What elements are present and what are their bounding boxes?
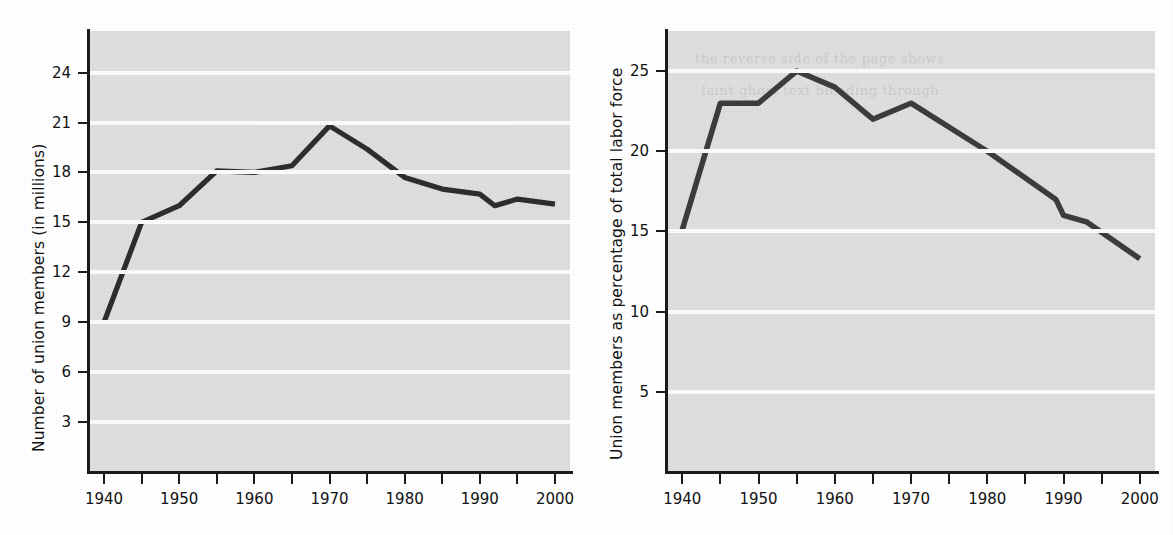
x-axis-tick-label: 1990 — [1044, 490, 1082, 508]
y-axis-tick — [656, 150, 665, 152]
y-axis-tick-label: 5 — [607, 383, 649, 401]
y-axis-line — [87, 29, 90, 474]
y-axis-tick — [656, 70, 665, 72]
gridline — [89, 220, 570, 224]
gridline — [89, 121, 570, 125]
plot-area-container — [89, 31, 570, 472]
x-axis-tick — [834, 474, 836, 484]
y-axis-tick — [78, 321, 87, 323]
gridline — [89, 370, 570, 374]
gridline — [667, 229, 1155, 233]
x-axis-tick — [1063, 474, 1065, 484]
x-axis-tick-label: 2000 — [1121, 490, 1159, 508]
gridline — [89, 71, 570, 75]
x-axis-tick-label: 1950 — [160, 490, 198, 508]
x-axis-tick — [216, 474, 218, 484]
y-axis-tick-label: 15 — [29, 213, 71, 231]
x-axis-tick-label: 1940 — [663, 490, 701, 508]
x-axis-tick — [554, 474, 556, 484]
x-axis-tick — [141, 474, 143, 484]
y-axis-tick — [78, 371, 87, 373]
gridline — [89, 170, 570, 174]
x-axis-line — [665, 471, 1159, 474]
x-axis-tick — [681, 474, 683, 484]
chart-union-members-percent: Union members as percentage of total lab… — [586, 0, 1173, 535]
y-axis-tick — [656, 391, 665, 393]
x-axis-tick-label: 1990 — [461, 490, 499, 508]
gridline — [667, 390, 1155, 394]
x-axis-tick-label: 1960 — [235, 490, 273, 508]
chart-union-members-count: Number of union members (in millions) 36… — [0, 0, 586, 535]
x-axis-tick — [1101, 474, 1103, 484]
y-axis-tick — [78, 171, 87, 173]
y-axis-tick-label: 15 — [607, 222, 649, 240]
x-axis-tick — [796, 474, 798, 484]
x-axis-tick-label: 1960 — [816, 490, 854, 508]
gridline — [667, 149, 1155, 153]
x-axis-tick — [910, 474, 912, 484]
y-axis-line — [665, 29, 668, 474]
gridline — [89, 420, 570, 424]
y-axis-tick — [78, 122, 87, 124]
x-axis-tick — [441, 474, 443, 484]
x-axis-tick — [758, 474, 760, 484]
figure-row: Number of union members (in millions) 36… — [0, 0, 1173, 535]
y-axis-tick-label: 18 — [29, 163, 71, 181]
y-axis-tick — [656, 311, 665, 313]
x-axis-tick — [479, 474, 481, 484]
y-axis-tick-label: 25 — [607, 62, 649, 80]
x-axis-tick — [948, 474, 950, 484]
x-axis-tick-label: 1950 — [739, 490, 777, 508]
gridline — [667, 69, 1155, 73]
x-axis-tick — [366, 474, 368, 484]
x-axis-tick — [986, 474, 988, 484]
x-axis-tick-label: 1970 — [892, 490, 930, 508]
y-axis-tick — [656, 230, 665, 232]
x-axis-tick-label: 1970 — [310, 490, 348, 508]
x-axis-tick — [103, 474, 105, 484]
y-axis-tick-label: 10 — [607, 303, 649, 321]
y-axis-tick-label: 12 — [29, 263, 71, 281]
y-axis-tick-label: 6 — [29, 363, 71, 381]
gridline — [89, 270, 570, 274]
x-axis-tick — [404, 474, 406, 484]
x-axis-tick — [719, 474, 721, 484]
x-axis-tick-label: 1980 — [968, 490, 1006, 508]
series-line-chart — [89, 31, 570, 472]
x-axis-tick-label: 2000 — [536, 490, 574, 508]
y-axis-tick — [78, 221, 87, 223]
y-axis-tick — [78, 271, 87, 273]
y-axis-tick-label: 20 — [607, 142, 649, 160]
x-axis-tick — [329, 474, 331, 484]
y-axis-tick — [78, 72, 87, 74]
y-axis-title: Union members as percentage of total lab… — [608, 68, 626, 460]
x-axis-tick-label: 1980 — [386, 490, 424, 508]
y-axis-tick-label: 9 — [29, 313, 71, 331]
y-axis-tick — [78, 421, 87, 423]
x-axis-tick — [516, 474, 518, 484]
x-axis-tick-label: 1940 — [85, 490, 123, 508]
x-axis-tick — [1024, 474, 1026, 484]
x-axis-tick — [1139, 474, 1141, 484]
series-line-chart — [667, 31, 1155, 472]
x-axis-tick — [253, 474, 255, 484]
x-axis-tick — [872, 474, 874, 484]
y-axis-tick-label: 3 — [29, 413, 71, 431]
gridline — [89, 320, 570, 324]
y-axis-tick-label: 21 — [29, 114, 71, 132]
plot-area-container: the reverse side of the page shows faint… — [667, 31, 1155, 472]
y-axis-tick-label: 24 — [29, 64, 71, 82]
gridline — [667, 310, 1155, 314]
y-axis-title: Number of union members (in millions) — [30, 144, 48, 452]
x-axis-tick — [178, 474, 180, 484]
x-axis-tick — [291, 474, 293, 484]
